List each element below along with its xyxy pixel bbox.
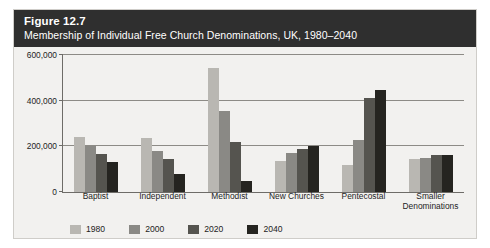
bar-group xyxy=(330,55,397,192)
bar-1980[interactable] xyxy=(275,161,286,192)
axes: 0200,000400,000600,000 xyxy=(62,55,464,193)
bar-2040[interactable] xyxy=(107,162,118,192)
bar-2020[interactable] xyxy=(96,154,107,192)
bar-series-layer xyxy=(63,55,464,192)
x-axis-category-labels: BaptistIndependentMethodistNew ChurchesP… xyxy=(62,192,464,214)
bar-2020[interactable] xyxy=(364,98,375,192)
bar-2040[interactable] xyxy=(308,146,319,192)
x-axis-label-line: Pentecostal xyxy=(330,192,397,202)
figure-number: Figure 12.7 xyxy=(24,15,466,28)
figure-caption: Membership of Individual Free Church Den… xyxy=(24,29,466,42)
bar-2000[interactable] xyxy=(152,151,163,192)
bar-1980[interactable] xyxy=(74,137,85,192)
bar-2020[interactable] xyxy=(431,155,442,192)
legend-label: 1980 xyxy=(86,225,105,234)
bar-2000[interactable] xyxy=(85,146,96,192)
legend-label: 2040 xyxy=(263,225,282,234)
y-axis-tick-label: 200,000 xyxy=(27,142,57,151)
bar-group xyxy=(397,55,464,192)
bar-2020[interactable] xyxy=(163,159,174,192)
legend-swatch-icon xyxy=(70,225,81,234)
x-axis-label: Independent xyxy=(129,192,196,214)
bar-group xyxy=(63,55,130,192)
bar-2020[interactable] xyxy=(230,142,241,192)
x-axis-label: New Churches xyxy=(263,192,330,214)
figure-panel: Figure 12.7 Membership of Individual Fre… xyxy=(13,9,477,239)
x-axis-label: Methodist xyxy=(196,192,263,214)
legend-item-2040[interactable]: 2040 xyxy=(247,225,282,234)
legend-label: 2000 xyxy=(145,225,164,234)
legend-item-1980[interactable]: 1980 xyxy=(70,225,105,234)
bar-1980[interactable] xyxy=(208,68,219,192)
bar-2000[interactable] xyxy=(420,158,431,192)
y-axis-tick-label: 600,000 xyxy=(27,51,57,60)
legend-label: 2020 xyxy=(204,225,223,234)
y-axis-tick-label: 0 xyxy=(52,188,57,197)
bar-2040[interactable] xyxy=(375,90,386,192)
chart-plot-area: 0200,000400,000600,000 BaptistIndependen… xyxy=(14,47,476,238)
x-axis-label: Pentecostal xyxy=(330,192,397,214)
x-axis-label: SmallerDenominations xyxy=(397,192,464,214)
x-axis-label: Baptist xyxy=(62,192,129,214)
legend-item-2000[interactable]: 2000 xyxy=(129,225,164,234)
bar-group xyxy=(197,55,264,192)
bar-group xyxy=(263,55,330,192)
bar-1980[interactable] xyxy=(409,159,420,192)
bar-2000[interactable] xyxy=(219,111,230,192)
x-axis-label-line: Denominations xyxy=(397,202,464,212)
bar-2000[interactable] xyxy=(286,153,297,192)
x-axis-label-line: Baptist xyxy=(62,192,129,202)
chart-legend: 1980200020202040 xyxy=(70,225,307,234)
bar-1980[interactable] xyxy=(141,138,152,192)
x-axis-label-line: New Churches xyxy=(263,192,330,202)
bar-1980[interactable] xyxy=(342,165,353,192)
legend-swatch-icon xyxy=(188,225,199,234)
x-axis-label-line: Methodist xyxy=(196,192,263,202)
y-axis-tick-label: 400,000 xyxy=(27,96,57,105)
bar-group xyxy=(130,55,197,192)
legend-item-2020[interactable]: 2020 xyxy=(188,225,223,234)
bar-2020[interactable] xyxy=(297,149,308,192)
bar-2040[interactable] xyxy=(442,155,453,192)
bar-2040[interactable] xyxy=(174,174,185,192)
figure-header: Figure 12.7 Membership of Individual Fre… xyxy=(14,10,476,47)
bar-2000[interactable] xyxy=(353,140,364,192)
x-axis-label-line: Independent xyxy=(129,192,196,202)
legend-swatch-icon xyxy=(247,225,258,234)
legend-swatch-icon xyxy=(129,225,140,234)
